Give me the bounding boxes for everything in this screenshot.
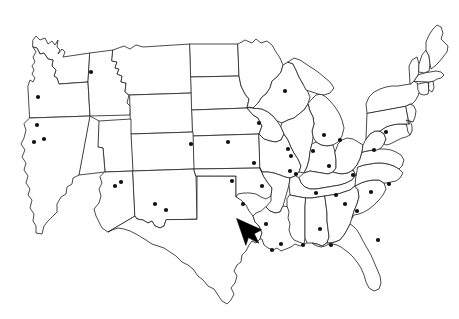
city-dot: [164, 208, 168, 212]
city-dot: [286, 147, 290, 151]
city-dot: [338, 138, 342, 142]
city-dot: [372, 148, 376, 152]
city-dot: [355, 209, 359, 213]
city-dot: [311, 149, 315, 153]
city-dot: [369, 190, 373, 194]
city-dot: [318, 227, 322, 231]
city-dot: [279, 242, 283, 246]
city-dot: [301, 243, 305, 247]
state-kansas: [193, 134, 260, 169]
us-map-svg: [0, 0, 459, 319]
city-dot: [252, 161, 256, 165]
state-outlines: [21, 25, 448, 304]
state-wyoming: [130, 93, 193, 134]
city-dot: [42, 137, 46, 141]
city-dot: [351, 173, 355, 177]
city-dot: [294, 172, 298, 176]
city-dot: [226, 140, 230, 144]
city-dot: [343, 202, 347, 206]
city-dot: [327, 164, 331, 168]
state-connecticut: [418, 82, 429, 95]
city-dot: [283, 89, 287, 93]
state-colorado: [131, 132, 194, 171]
city-dot: [257, 121, 261, 125]
city-dot: [288, 169, 292, 173]
city-dot: [329, 243, 333, 247]
city-dot: [35, 123, 39, 127]
state-alabama: [305, 196, 329, 246]
state-north-dakota: [190, 44, 239, 77]
city-dot: [314, 191, 318, 195]
city-dot: [113, 184, 117, 188]
city-dot: [230, 179, 234, 183]
city-dot: [289, 154, 293, 158]
city-dot: [334, 193, 338, 197]
us-map-figure: [0, 0, 459, 319]
city-dot: [260, 184, 264, 188]
city-dot: [264, 222, 268, 226]
city-dot: [36, 95, 40, 99]
city-dot: [387, 182, 391, 186]
city-dot: [241, 202, 245, 206]
city-dot: [384, 130, 388, 134]
city-dot: [119, 180, 123, 184]
city-dot: [189, 142, 193, 146]
state-new-jersey: [406, 104, 416, 124]
city-dot: [270, 248, 274, 252]
city-dot: [376, 238, 380, 242]
city-dot: [153, 202, 157, 206]
city-dot: [32, 140, 36, 144]
state-rhode-island: [429, 81, 434, 92]
city-dot: [89, 70, 93, 74]
city-dot: [322, 133, 326, 137]
